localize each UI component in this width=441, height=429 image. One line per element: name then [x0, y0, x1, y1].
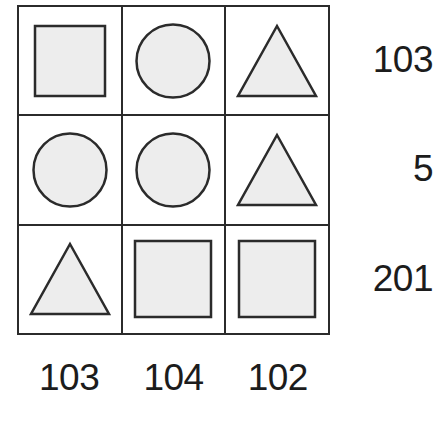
table-row: [18, 225, 329, 334]
row-label-3: 201: [334, 224, 437, 333]
grid-cell-r3c3[interactable]: [225, 225, 329, 334]
square-icon: [133, 239, 213, 319]
circle-icon: [134, 22, 212, 100]
cell-content-r1c1: [19, 7, 121, 114]
row-label-2: 5: [334, 114, 437, 223]
grid-cell-r1c3[interactable]: [225, 6, 329, 115]
column-label-2: 104: [121, 352, 225, 402]
row-label-1: 103: [334, 5, 437, 114]
cell-content-r2c3: [226, 116, 328, 223]
triangle-icon: [235, 23, 319, 99]
grid-cell-r2c3[interactable]: [225, 115, 329, 224]
shape-grid-body: [18, 6, 329, 334]
grid-cell-r1c1[interactable]: [18, 6, 122, 115]
grid-cell-r2c2[interactable]: [122, 115, 226, 224]
cell-content-r3c1: [19, 226, 121, 333]
column-label-group: 103 104 102: [17, 352, 330, 402]
grid-cell-r1c2[interactable]: [122, 6, 226, 115]
triangle-icon: [235, 132, 319, 208]
column-label-3: 102: [226, 352, 330, 402]
grid-cell-r3c1[interactable]: [18, 225, 122, 334]
grid-cell-r3c2[interactable]: [122, 225, 226, 334]
table-row: [18, 6, 329, 115]
cell-content-r3c3: [226, 226, 328, 333]
cell-content-r1c2: [123, 7, 225, 114]
cell-content-r3c2: [123, 226, 225, 333]
shape-grid-figure: 103 5 201 103 104 102: [0, 0, 441, 429]
grid-cell-r2c1[interactable]: [18, 115, 122, 224]
row-label-group: 103 5 201: [334, 5, 437, 333]
circle-icon: [31, 131, 109, 209]
square-icon: [33, 24, 107, 98]
table-row: [18, 115, 329, 224]
shape-grid-table: [17, 5, 330, 335]
column-label-1: 103: [17, 352, 121, 402]
cell-content-r2c2: [123, 116, 225, 223]
triangle-icon: [28, 241, 112, 317]
cell-content-r1c3: [226, 7, 328, 114]
cell-content-r2c1: [19, 116, 121, 223]
square-icon: [237, 239, 317, 319]
circle-icon: [134, 131, 212, 209]
